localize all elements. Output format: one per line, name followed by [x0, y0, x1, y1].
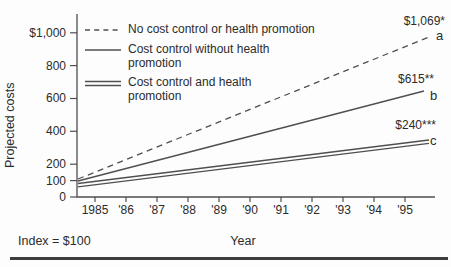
legend-label-no-cost-control: No cost control or health promotion	[128, 22, 358, 36]
annotation-value-a: $1,069*	[375, 14, 445, 28]
y-tick-label: 400	[6, 124, 66, 138]
series-line-c	[78, 140, 429, 184]
series-line-c-2	[78, 143, 429, 187]
annotation-value-b: $615**	[372, 72, 434, 86]
annotation-value-c: $240***	[372, 118, 436, 132]
legend-solid-line-sample	[84, 45, 124, 55]
y-tick-label: 0	[6, 190, 66, 204]
x-tick-label: '95	[385, 203, 425, 217]
legend-label-cost-control-without: Cost control without health promotion	[128, 42, 298, 70]
annotation-letter-a: a	[436, 28, 443, 43]
annotation-letter-b: b	[430, 88, 437, 103]
y-tick-label: 800	[6, 59, 66, 73]
legend-double-line-sample	[84, 78, 124, 90]
bottom-rule	[10, 257, 448, 260]
legend-label-cost-control-and-health: Cost control and health promotion	[128, 75, 280, 103]
y-tick-label: 100	[6, 174, 66, 188]
projected-costs-figure: Projected costs $1,0008006004002001000 1…	[0, 0, 451, 267]
y-tick-label: 200	[6, 157, 66, 171]
index-footnote: Index = $100	[18, 234, 91, 248]
x-axis-title: Year	[223, 234, 263, 248]
y-tick-label: $1,000	[6, 26, 66, 40]
y-tick-label: 600	[6, 91, 66, 105]
plot-area	[0, 0, 451, 267]
legend-dashed-line-sample	[84, 25, 124, 35]
annotation-letter-c: c	[430, 133, 437, 148]
series-line-b	[78, 91, 424, 181]
